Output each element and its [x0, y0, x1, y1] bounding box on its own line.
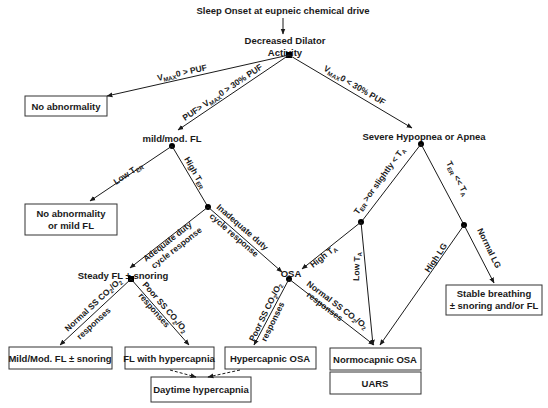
edge-normal-ss-1: [60, 279, 131, 345]
dilator-node-line1: Decreased Dilator: [245, 35, 326, 46]
dilator-node-line2: Activity: [268, 47, 303, 58]
label-ter-ll-ta: TER << TA: [443, 159, 471, 198]
no-abn-mild-line2: or mild FL: [48, 220, 94, 231]
normocapnic-osa-label: Normocapnic OSA: [333, 354, 417, 365]
label-ter-slightly: TER >or slightly < TA: [352, 144, 409, 216]
label-high-ta: High TA: [308, 242, 340, 270]
edge-to-severe: [289, 55, 412, 128]
label-normal-ss-2: Normal SS CO2/O2: [304, 279, 370, 333]
stable-line1: Stable breathing: [457, 288, 532, 299]
label-high-lg: High LG: [422, 241, 449, 274]
label-vmax-gt-puf: VMAX0 > PUF: [156, 62, 208, 84]
label-low-ter: Low TER: [112, 160, 146, 188]
stable-line2: ± snoring and/or FL: [450, 300, 539, 311]
mild-mod-fl-node: mild/mod. FL: [142, 133, 201, 144]
label-normal-lg: Normal LG: [475, 226, 503, 270]
edge-to-no-abnormality: [107, 55, 289, 96]
uars-label: UARS: [362, 378, 389, 389]
severe-node: Severe Hypopnea or Apnea: [362, 131, 486, 142]
daytime-hypercapnia-label: Daytime hypercapnia: [153, 384, 249, 395]
no-abnormality-label: No abnormality: [31, 101, 101, 112]
fl-hypercapnia-label: FL with hypercapnia: [123, 353, 215, 364]
label-vmax-lt-30: VMAX0 < 30% PUF: [321, 63, 387, 108]
hypercapnic-osa-label: Hypercapnic OSA: [230, 353, 310, 364]
mild-mod-snoring-label: Mild/Mod. FL ± snoring: [8, 353, 111, 364]
root-node: Sleep Onset at eupneic chemical drive: [196, 5, 369, 16]
dashed-edge-fl-to-daytime: [170, 370, 196, 377]
dashed-edge-osa-to-daytime: [208, 370, 240, 377]
flow-diagram: Sleep Onset at eupneic chemical drive De…: [0, 0, 548, 408]
label-low-ta: Low TA: [351, 251, 363, 281]
steady-fl-node: Steady FL ± snoring: [78, 270, 169, 281]
no-abn-mild-line1: No abnormality: [36, 208, 106, 219]
